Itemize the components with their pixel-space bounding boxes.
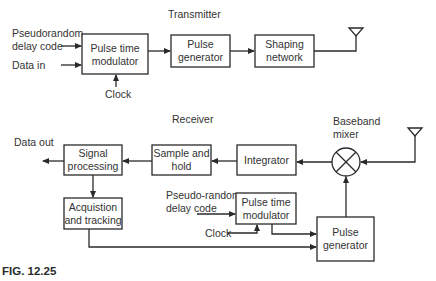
baseband-mixer-icon: [332, 148, 360, 176]
tx-pulse-time-modulator-block: Pulse time modulator: [82, 34, 148, 74]
tx-code-label-1: Pseudorandom: [12, 27, 83, 39]
rx-arrow-acq-to-pg: [89, 229, 316, 247]
svg-text:Acquistion: Acquistion: [69, 201, 118, 213]
rx-signal-processing-block: Signal processing: [64, 145, 122, 175]
tx-shaping-network-block: Shaping network: [255, 35, 314, 67]
rx-pulse-generator-block: Pulse generator: [317, 217, 374, 261]
rx-sample-hold-block: Sample and hold: [152, 145, 211, 175]
rx-data-out-label: Data out: [14, 136, 54, 148]
svg-text:processing: processing: [68, 160, 119, 172]
rx-antenna-icon: [408, 128, 422, 136]
svg-text:generator: generator: [323, 239, 368, 251]
uwb-block-diagram: Transmitter Pseudorandom delay code Data…: [0, 0, 436, 281]
svg-text:Pulse time: Pulse time: [90, 42, 139, 54]
transmitter-title: Transmitter: [168, 8, 221, 20]
mixer-label-2: mixer: [333, 128, 359, 140]
rx-code-label-2: delay code: [166, 202, 217, 214]
tx-antenna-icon: [349, 28, 363, 36]
svg-text:generator: generator: [178, 51, 223, 63]
rx-integrator-block: Integrator: [237, 145, 296, 175]
svg-text:hold: hold: [172, 160, 192, 172]
svg-text:modulator: modulator: [243, 209, 290, 221]
rx-pulse-time-modulator-block: Pulse time modulator: [236, 193, 296, 224]
rx-code-label-1: Pseudo-random: [166, 189, 241, 201]
tx-data-in-label: Data in: [12, 59, 45, 71]
rx-antenna-feed: [361, 136, 415, 162]
rx-clock-arrow: [227, 225, 257, 233]
tx-clock-label: Clock: [105, 88, 132, 100]
receiver-title: Receiver: [172, 113, 214, 125]
svg-text:Pulse time: Pulse time: [241, 196, 290, 208]
svg-text:Pulse: Pulse: [187, 38, 213, 50]
svg-text:network: network: [266, 51, 304, 63]
figure-caption: FIG. 12.25: [2, 265, 57, 277]
svg-text:and tracking: and tracking: [64, 214, 121, 226]
mixer-label-1: Baseband: [333, 115, 380, 127]
tx-pulse-generator-block: Pulse generator: [171, 35, 230, 67]
rx-acquisition-tracking-block: Acquistion and tracking: [64, 198, 122, 229]
svg-text:Sample and: Sample and: [153, 147, 209, 159]
svg-text:modulator: modulator: [92, 55, 139, 67]
tx-antenna-feed: [314, 36, 356, 51]
svg-text:Signal: Signal: [78, 147, 107, 159]
svg-text:Pulse: Pulse: [332, 226, 358, 238]
svg-text:Shaping: Shaping: [265, 38, 304, 50]
rx-arrow-ptm-to-pg: [272, 224, 316, 234]
svg-text:Integrator: Integrator: [244, 154, 289, 166]
tx-code-label-2: delay code: [12, 40, 63, 52]
